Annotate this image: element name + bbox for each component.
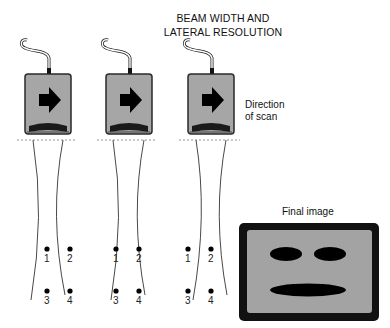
beam-edge-right-3 — [219, 140, 227, 295]
beam-edge-right-1 — [56, 140, 65, 295]
svg-text:1: 1 — [185, 253, 191, 264]
svg-text:3: 3 — [113, 295, 119, 306]
svg-text:4: 4 — [136, 295, 142, 306]
svg-text:2: 2 — [67, 253, 73, 264]
svg-text:1: 1 — [44, 253, 50, 264]
mouth-blob — [270, 284, 346, 297]
svg-text:1: 1 — [113, 253, 119, 264]
svg-text:3: 3 — [44, 295, 50, 306]
beam-diagram: 1 2 3 4 1 2 3 4 1 2 3 4 — [0, 0, 390, 328]
beam-edge-left-3 — [193, 140, 201, 300]
final-image-screen — [239, 223, 379, 321]
svg-text:4: 4 — [208, 295, 214, 306]
transducer-3 — [184, 40, 234, 134]
svg-text:2: 2 — [136, 253, 142, 264]
right-eye-blob — [314, 247, 346, 261]
reflectors-group-2: 1 2 3 4 — [113, 246, 142, 306]
svg-text:3: 3 — [185, 295, 191, 306]
beam-edge-right-2 — [137, 140, 145, 295]
svg-text:4: 4 — [67, 295, 73, 306]
transducer-2 — [102, 40, 152, 134]
svg-text:2: 2 — [208, 253, 214, 264]
transducer-1 — [21, 40, 71, 134]
beam-edge-left-1 — [31, 140, 39, 300]
beam-edge-left-2 — [111, 140, 119, 300]
left-eye-blob — [270, 247, 302, 261]
